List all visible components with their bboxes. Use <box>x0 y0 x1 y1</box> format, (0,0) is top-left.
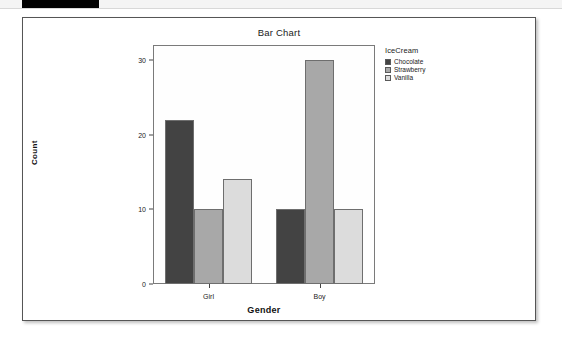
y-tick-mark <box>149 284 153 285</box>
legend-title: IceCream <box>385 46 465 55</box>
header-divider <box>0 8 562 9</box>
y-axis-title: Count <box>30 140 39 165</box>
legend-swatch-icon <box>385 75 391 81</box>
chart-title: Bar Chart <box>23 27 535 38</box>
legend-item-label: Strawberry <box>394 66 425 73</box>
legend-item-label: Chocolate <box>394 58 423 65</box>
legend-item-label: Vanilla <box>394 74 413 81</box>
chart-output-panel[interactable]: Bar Chart Count 0102030 GirlBoy Gender I… <box>22 17 536 321</box>
y-tick-mark <box>149 209 153 210</box>
y-tick-label: 10 <box>124 206 146 213</box>
bar[interactable] <box>223 179 252 284</box>
y-tick-label: 20 <box>124 131 146 138</box>
legend-item[interactable]: Chocolate <box>385 58 465 65</box>
x-axis-title: Gender <box>153 305 375 315</box>
header-title-block <box>22 0 99 8</box>
x-tick-label: Girl <box>179 293 239 300</box>
y-tick-mark <box>149 134 153 135</box>
legend-rows: ChocolateStrawberryVanilla <box>385 58 465 81</box>
legend-item[interactable]: Strawberry <box>385 66 465 73</box>
bar[interactable] <box>276 209 305 284</box>
legend-item[interactable]: Vanilla <box>385 74 465 81</box>
window-header-strip <box>0 0 562 9</box>
legend-swatch-icon <box>385 67 391 73</box>
x-tick-mark <box>209 284 210 288</box>
bar[interactable] <box>334 209 363 284</box>
bar[interactable] <box>305 60 334 284</box>
chart-legend: IceCream ChocolateStrawberryVanilla <box>385 46 465 82</box>
y-tick-label: 0 <box>124 281 146 288</box>
x-tick-label: Boy <box>290 293 350 300</box>
x-tick-mark <box>320 284 321 288</box>
bar[interactable] <box>194 209 223 284</box>
bar[interactable] <box>165 120 194 284</box>
y-tick-label: 30 <box>124 56 146 63</box>
y-tick-mark <box>149 59 153 60</box>
legend-swatch-icon <box>385 59 391 65</box>
